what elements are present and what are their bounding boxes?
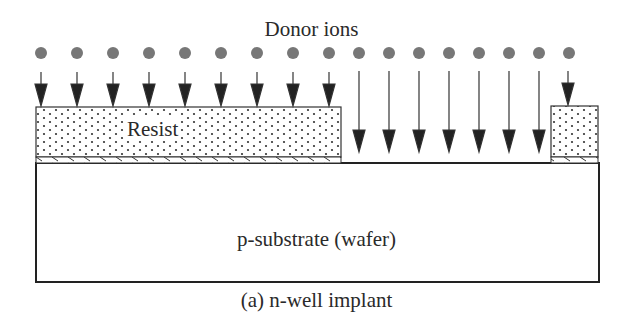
- ion-icon: [107, 47, 119, 59]
- ion-icon: [353, 47, 365, 59]
- arrow-down-icon: [413, 71, 425, 152]
- left-resist-block: [36, 107, 341, 163]
- n-well-implant-diagram: [0, 0, 633, 323]
- arrow-down-icon: [383, 71, 395, 152]
- arrow-down-icon: [287, 72, 299, 106]
- implanted-ion-arrows: [353, 71, 545, 152]
- arrow-down-icon: [107, 72, 119, 106]
- arrow-down-icon: [251, 72, 263, 106]
- ion-icon: [71, 47, 83, 59]
- ion-icon: [473, 47, 485, 59]
- arrow-down-icon: [179, 72, 191, 106]
- donor-ions: [35, 47, 575, 59]
- arrow-down-icon: [143, 72, 155, 106]
- resist-label: Resist: [125, 117, 180, 141]
- ion-icon: [143, 47, 155, 59]
- substrate-label: p-substrate (wafer): [0, 227, 633, 252]
- ion-icon: [503, 47, 515, 59]
- figure-caption: (a) n-well implant: [0, 288, 633, 313]
- blocked-ion-arrows: [35, 71, 574, 106]
- ion-icon: [413, 47, 425, 59]
- ion-icon: [533, 47, 545, 59]
- diagram-title: Donor ions: [0, 17, 633, 42]
- arrow-down-icon: [215, 72, 227, 106]
- ion-icon: [215, 47, 227, 59]
- ion-icon: [563, 47, 575, 59]
- arrow-down-icon: [35, 72, 47, 106]
- ion-icon: [443, 47, 455, 59]
- right-oxide-layer: [551, 157, 598, 163]
- ion-icon: [383, 47, 395, 59]
- arrow-down-icon: [353, 71, 365, 152]
- ion-icon: [179, 47, 191, 59]
- p-substrate: [36, 163, 599, 282]
- arrow-down-icon: [503, 71, 515, 152]
- arrow-down-icon: [323, 72, 335, 106]
- arrow-down-icon: [562, 71, 574, 105]
- ion-icon: [251, 47, 263, 59]
- arrow-down-icon: [473, 71, 485, 152]
- ion-icon: [35, 47, 47, 59]
- right-resist-block: [551, 106, 598, 163]
- left-oxide-layer: [36, 157, 341, 163]
- ion-icon: [287, 47, 299, 59]
- arrow-down-icon: [71, 72, 83, 106]
- arrow-down-icon: [443, 71, 455, 152]
- ion-icon: [323, 47, 335, 59]
- arrow-down-icon: [533, 71, 545, 152]
